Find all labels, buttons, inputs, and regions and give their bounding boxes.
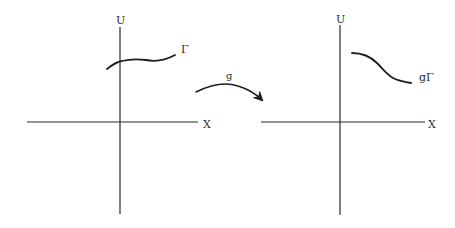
mapping-arrow <box>196 84 262 100</box>
left-coordinate-system: U X Γ <box>27 14 211 214</box>
curve-gamma-label: Γ <box>181 43 189 56</box>
right-coordinate-system: U X gΓ <box>261 13 436 215</box>
left-horizontal-axis-label: X <box>203 118 211 131</box>
right-horizontal-axis-label: X <box>428 118 436 131</box>
left-vertical-axis-label: U <box>116 14 125 27</box>
mapping-g: g <box>196 70 262 100</box>
mapping-label: g <box>226 70 233 81</box>
curve-g-gamma <box>352 53 411 83</box>
curve-gamma <box>107 55 175 69</box>
transformation-diagram: U X Γ g U X gΓ <box>0 0 455 228</box>
right-vertical-axis-label: U <box>336 13 345 26</box>
curve-g-gamma-label: gΓ <box>419 71 434 84</box>
